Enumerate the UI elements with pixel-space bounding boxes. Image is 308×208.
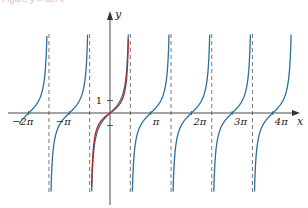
x-axis-label: x xyxy=(297,115,304,128)
tan-branch-curve xyxy=(19,36,47,124)
x-tick-label: 4π xyxy=(274,116,288,127)
axis-labels: −2π−ππ2π3π4π1xy xyxy=(12,8,304,128)
y-axis-label: y xyxy=(114,8,122,21)
x-tick-label: −π xyxy=(56,116,71,127)
tangent-graph: −2π−ππ2π3π4π1xy xyxy=(0,0,308,208)
x-tick-label: 3π xyxy=(234,116,247,127)
x-tick-label: π xyxy=(152,116,160,127)
y-tick-label: 1 xyxy=(96,95,102,106)
x-tick-label: 2π xyxy=(192,116,206,127)
y-axis-arrow-icon xyxy=(107,11,113,20)
x-tick-label: −2π xyxy=(12,116,34,127)
